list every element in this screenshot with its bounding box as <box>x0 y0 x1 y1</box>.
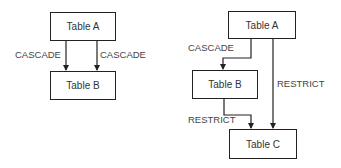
right-edge-label-a-b: CASCADE <box>188 42 234 53</box>
left-table-b: Table B <box>50 71 116 100</box>
left-edge-label-cascade-2: CASCADE <box>100 49 146 60</box>
right-table-a: Table A <box>228 11 296 39</box>
left-edge-label-cascade-1: CASCADE <box>15 49 61 60</box>
right-edge-label-a-c: RESTRICT <box>277 78 325 89</box>
right-table-c: Table C <box>229 129 297 159</box>
right-table-b: Table B <box>192 70 258 99</box>
right-edge-label-b-c: RESTRICT <box>188 114 236 125</box>
left-table-a: Table A <box>50 12 116 41</box>
